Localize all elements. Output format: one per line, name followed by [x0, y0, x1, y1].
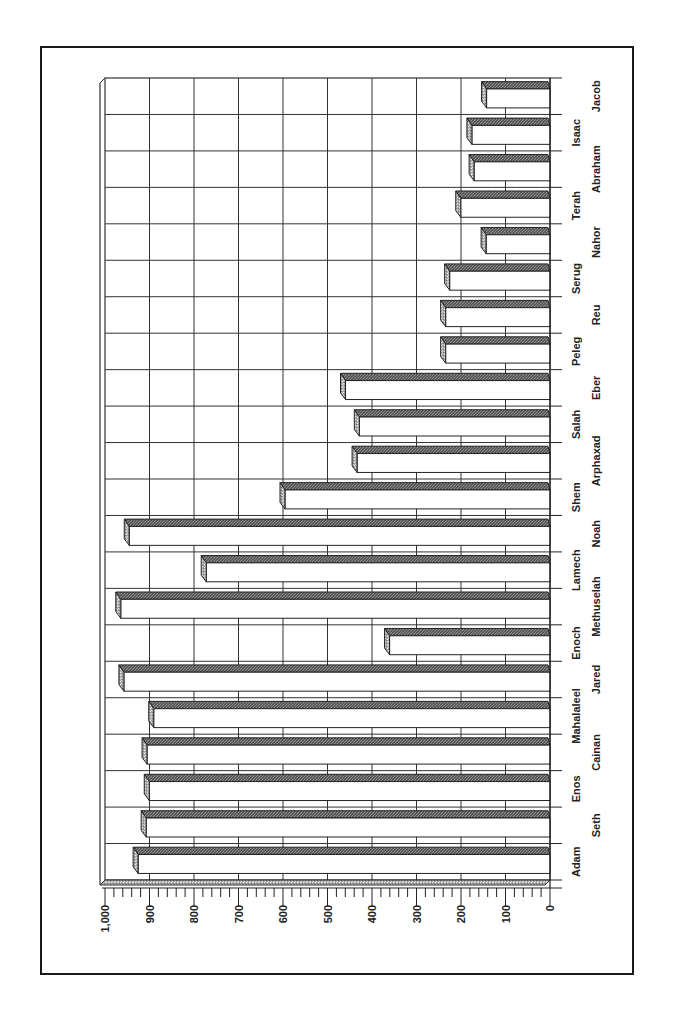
bar-reu	[441, 300, 550, 326]
bar-abraham	[469, 155, 550, 181]
category-label: Adam	[570, 846, 582, 877]
value-tick-label: 200	[455, 905, 467, 923]
category-label: Eber	[590, 375, 602, 400]
bar-lamech	[201, 556, 550, 582]
bar-mahalaleel	[149, 701, 550, 727]
bar-terah	[456, 191, 550, 217]
bar-peleg	[441, 337, 550, 363]
category-label: Serug	[570, 263, 582, 294]
category-label: Nahor	[590, 225, 602, 258]
category-label: Mahalaleel	[570, 688, 582, 744]
bar-noah	[124, 519, 550, 545]
bar-series	[116, 82, 550, 874]
bar-adam	[133, 847, 550, 873]
value-tick-label: 900	[144, 905, 156, 923]
value-tick-label: 600	[277, 905, 289, 923]
bar-arphaxad	[352, 446, 550, 472]
value-tick-label: 400	[366, 905, 378, 923]
bar-methuselah	[116, 592, 550, 618]
category-label: Noah	[590, 520, 602, 548]
value-tick-label: 100	[500, 905, 512, 923]
bar-enos	[144, 774, 550, 800]
category-label: Shem	[570, 482, 582, 512]
category-label: Methuselah	[590, 576, 602, 637]
bar-nahor	[481, 227, 550, 253]
bar-jared	[119, 665, 550, 691]
bar-salah	[354, 410, 550, 436]
value-tick-label: 800	[188, 905, 200, 923]
category-label: Peleg	[570, 337, 582, 366]
value-tick-label: 0	[544, 905, 556, 911]
category-axis: AdamSethEnosCainanMahalaleelJaredEnochMe…	[550, 78, 602, 888]
value-tick-label: 1,000	[99, 905, 111, 933]
bar-isaac	[467, 118, 550, 144]
category-label: Cainan	[590, 734, 602, 771]
value-axis: 01002003004005006007008009001,000	[99, 888, 562, 933]
bar-chart: 01002003004005006007008009001,000 AdamSe…	[0, 0, 674, 1021]
category-label: Enos	[570, 775, 582, 802]
bar-jacob	[482, 82, 550, 108]
bar-serug	[445, 264, 550, 290]
category-label: Seth	[590, 813, 602, 837]
bar-cainan	[142, 738, 550, 764]
bar-shem	[280, 483, 550, 509]
value-tick-label: 700	[233, 905, 245, 923]
category-label: Jared	[590, 665, 602, 694]
bar-eber	[341, 373, 550, 399]
category-label: Isaac	[570, 119, 582, 147]
bar-seth	[141, 811, 550, 837]
value-tick-label: 300	[411, 905, 423, 923]
category-label: Arphaxad	[590, 435, 602, 486]
category-label: Salah	[570, 409, 582, 439]
category-label: Reu	[590, 305, 602, 326]
category-label: Terah	[570, 191, 582, 220]
bar-enoch	[385, 628, 550, 654]
category-label: Abraham	[590, 145, 602, 193]
category-label: Jacob	[590, 80, 602, 112]
category-label: Enoch	[570, 626, 582, 660]
category-label: Lamech	[570, 549, 582, 591]
value-tick-label: 500	[322, 905, 334, 923]
